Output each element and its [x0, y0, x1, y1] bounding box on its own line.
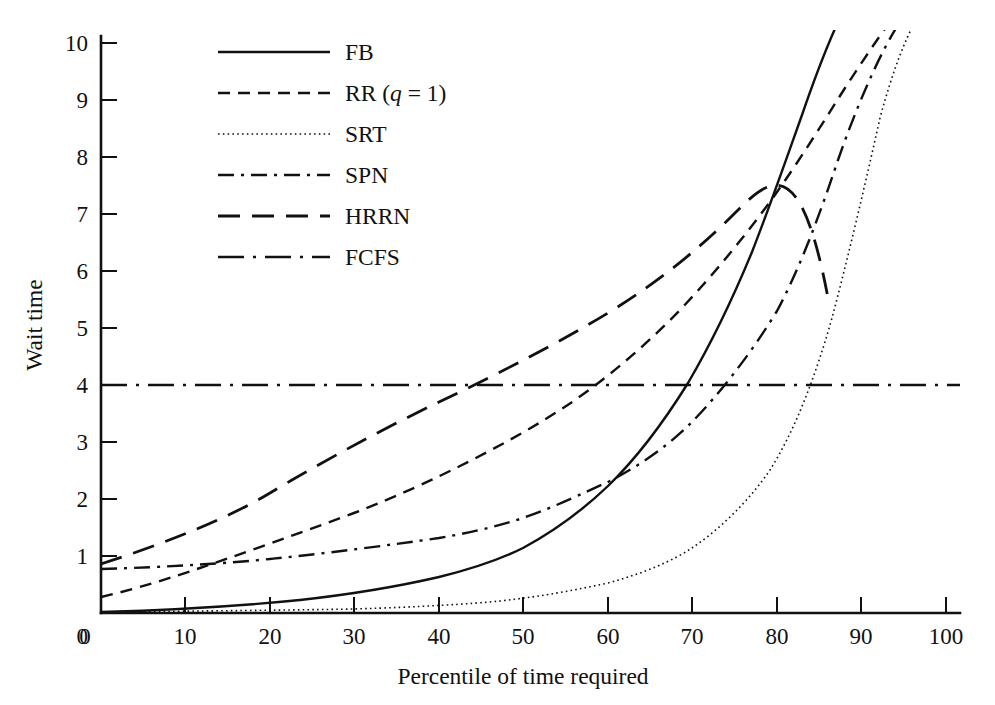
y-tick-label-6: 6 [77, 259, 89, 284]
x-axis-tick-labels: 0 10 20 30 40 50 60 70 80 90 100 [79, 624, 963, 649]
legend-label-srt: SRT [345, 121, 387, 147]
axes-group [101, 36, 960, 613]
x-tick-label-30: 30 [343, 624, 366, 649]
y-tick-label-7: 7 [77, 202, 89, 227]
y-tick-label-9: 9 [77, 88, 89, 113]
legend-label-fb: FB [345, 39, 374, 65]
y-tick-label-8: 8 [77, 145, 89, 170]
y-tick-label-10: 10 [65, 31, 88, 56]
y-axis-title: Wait time [21, 279, 47, 370]
wait-time-percentile-chart: 10 9 8 7 6 5 4 3 2 1 0 0 10 [0, 0, 995, 705]
legend-label-fcfs: FCFS [345, 244, 400, 270]
x-tick-label-80: 80 [766, 624, 789, 649]
x-tick-label-60: 60 [597, 624, 620, 649]
y-tick-label-1: 1 [77, 544, 89, 569]
x-axis-title: Percentile of time required [397, 663, 648, 689]
y-tick-label-3: 3 [77, 430, 89, 455]
legend-label-rr-prefix: RR ( [345, 80, 390, 106]
x-tick-label-10: 10 [174, 624, 197, 649]
legend-label-spn: SPN [345, 162, 388, 188]
x-tick-label-50: 50 [512, 624, 535, 649]
y-tick-label-5: 5 [77, 316, 89, 341]
series-line-rr [101, 22, 890, 597]
y-axis-tick-labels: 10 9 8 7 6 5 4 3 2 1 0 [65, 31, 89, 649]
legend: FB RR (q = 1) SRT SPN HRRN FCFS [218, 39, 446, 270]
x-tick-label-0: 0 [79, 624, 91, 649]
x-tick-label-40: 40 [428, 624, 451, 649]
y-tick-label-2: 2 [77, 487, 89, 512]
x-tick-label-90: 90 [850, 624, 873, 649]
legend-label-hrrn: HRRN [345, 203, 410, 229]
y-axis-ticks [101, 43, 117, 556]
series-line-spn [101, 22, 900, 569]
legend-label-rr-suffix: = 1) [402, 80, 447, 106]
legend-label-rr: RR (q = 1) [345, 80, 446, 106]
legend-label-rr-italic: q [390, 80, 402, 106]
x-tick-label-20: 20 [259, 624, 282, 649]
y-tick-label-4: 4 [77, 373, 89, 398]
series-curves [101, 22, 960, 612]
x-tick-label-100: 100 [929, 624, 964, 649]
series-line-hrrn [101, 185, 828, 564]
chart-figure: 10 9 8 7 6 5 4 3 2 1 0 0 10 [0, 0, 995, 705]
x-tick-label-70: 70 [681, 624, 704, 649]
